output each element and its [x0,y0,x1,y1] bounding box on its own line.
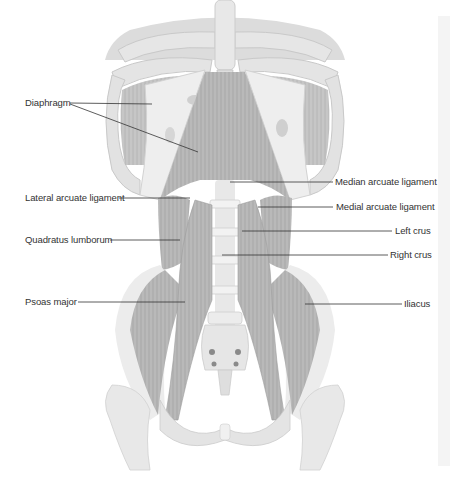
label-diaphragm: Diaphragm [25,97,71,108]
sacrum [202,325,249,395]
label-lateral-arcuate-ligament: Lateral arcuate ligament [25,192,125,203]
label-medial-arcuate-ligament: Medial arcuate ligament [336,201,435,212]
label-right-crus: Right crus [390,249,432,260]
label-median-arcuate-ligament: Median arcuate ligament [335,176,437,187]
label-iliacus: Iliacus [404,298,430,309]
pelvis-and-femurs [105,385,344,470]
label-psoas-major: Psoas major [25,296,77,307]
label-quadratus-lumborum: Quadratus lumborum [25,234,112,245]
label-left-crus: Left crus [395,225,431,236]
